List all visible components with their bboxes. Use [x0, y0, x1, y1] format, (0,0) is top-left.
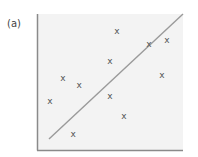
data-point-x-marker: x [146, 39, 152, 49]
data-point-x-marker: x [121, 111, 127, 121]
data-point-x-marker: x [114, 26, 120, 36]
data-point-x-marker: x [70, 129, 76, 139]
data-point-x-marker: x [60, 73, 66, 83]
data-point-x-marker: x [159, 70, 165, 80]
data-point-x-marker: x [107, 56, 113, 66]
data-point-x-marker: x [107, 91, 113, 101]
data-point-x-marker: x [76, 80, 82, 90]
data-point-x-marker: x [164, 35, 170, 45]
scatter-chart: xxxxxxxxxxx [0, 0, 198, 157]
data-point-x-marker: x [47, 96, 53, 106]
